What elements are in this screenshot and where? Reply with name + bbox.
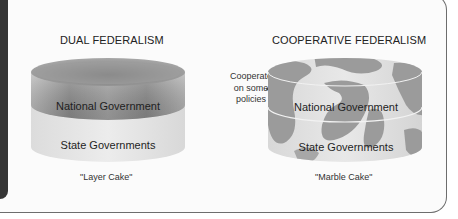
national-layer-label: National Government (294, 101, 398, 113)
cooperative-federalism-title: COOPERATIVE FEDERALISM (272, 34, 426, 46)
state-layer-label: State Governments (61, 139, 156, 151)
marble-cake: National Government State Governments (264, 55, 426, 167)
layer-cake: National Government State Governments (28, 55, 188, 167)
side-bar (0, 0, 8, 199)
layer-cake-caption: "Layer Cake" (80, 172, 132, 182)
national-layer-label: National Government (56, 100, 160, 112)
marble-cake-caption: "Marble Cake" (315, 172, 372, 182)
state-layer-label: State Governments (299, 141, 394, 153)
dual-federalism-title: DUAL FEDERALISM (60, 34, 164, 46)
